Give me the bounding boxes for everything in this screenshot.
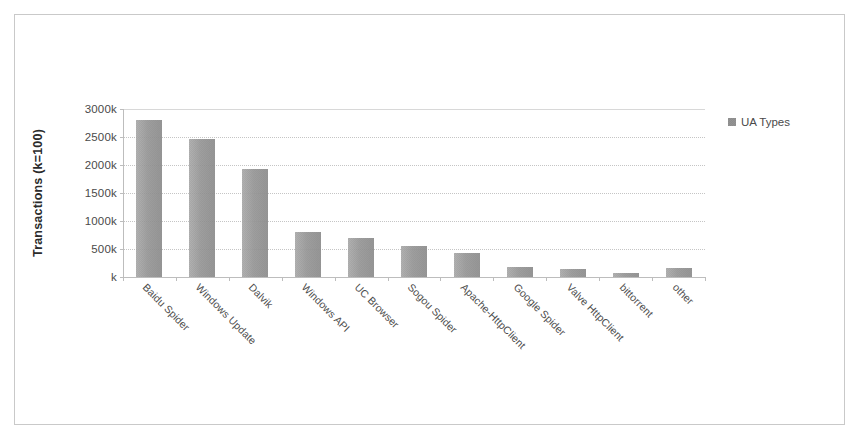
bar-windows-api[interactable]	[295, 232, 321, 277]
y-axis-title: Transactions (k=100)	[29, 109, 47, 277]
bar-baidu-spider[interactable]	[136, 120, 162, 277]
x-axis-label: Valve HttpClient	[564, 281, 626, 343]
chart-frame: Transactions (k=100) k500k1000k1500k2000…	[14, 14, 845, 425]
x-axis-label: Sogou Spider	[406, 281, 460, 335]
y-axis-tick-mark	[120, 193, 124, 194]
y-axis-title-text: Transactions (k=100)	[31, 129, 45, 257]
x-axis-label: other	[670, 281, 696, 307]
y-axis-tick-label: 500k	[91, 243, 117, 255]
y-axis-tick-mark	[120, 165, 124, 166]
y-axis-tick-label: 2000k	[85, 159, 117, 171]
y-axis-line	[123, 109, 124, 277]
bar-other[interactable]	[666, 268, 692, 277]
y-axis-tick-mark	[120, 137, 124, 138]
x-axis-label: Windows API	[300, 281, 353, 334]
x-axis-label: Baidu Spider	[141, 281, 193, 333]
gridline	[123, 109, 705, 110]
y-axis-tick-label: k	[111, 271, 117, 283]
y-axis-tick-mark	[120, 221, 124, 222]
plot-area	[123, 109, 705, 277]
bar-sogou-spider[interactable]	[401, 246, 427, 277]
y-axis-tick-label: 2500k	[85, 131, 117, 143]
bar-uc-browser[interactable]	[348, 238, 374, 277]
chart-legend: UA Types	[728, 116, 790, 128]
x-axis-tick-mark	[705, 277, 706, 281]
y-axis-tick-mark	[120, 109, 124, 110]
bar-apache-httpclient[interactable]	[454, 253, 480, 277]
y-axis-tick-label: 1500k	[85, 187, 117, 199]
x-axis-label: Google Spider	[511, 281, 568, 338]
y-axis-tick-label: 1000k	[85, 215, 117, 227]
bar-google-spider[interactable]	[507, 267, 533, 277]
bar-dalvik[interactable]	[242, 169, 268, 277]
y-axis-tick-mark	[120, 249, 124, 250]
x-axis-category-labels: Baidu SpiderWindows UpdateDalvikWindows …	[123, 281, 705, 381]
x-axis-label: UC Browser	[353, 281, 402, 330]
legend-swatch-icon	[728, 118, 736, 126]
bar-valve-httpclient[interactable]	[560, 269, 586, 277]
legend-label: UA Types	[741, 116, 790, 128]
bar-windows-update[interactable]	[189, 139, 215, 277]
y-axis-tick-label: 3000k	[85, 103, 117, 115]
chart-screenshot: Transactions (k=100) k500k1000k1500k2000…	[0, 0, 860, 439]
y-axis-tick-labels: k500k1000k1500k2000k2500k3000k	[67, 109, 117, 277]
x-axis-label: Dalvik	[247, 281, 276, 310]
x-axis-label: bittorrent	[617, 281, 655, 319]
